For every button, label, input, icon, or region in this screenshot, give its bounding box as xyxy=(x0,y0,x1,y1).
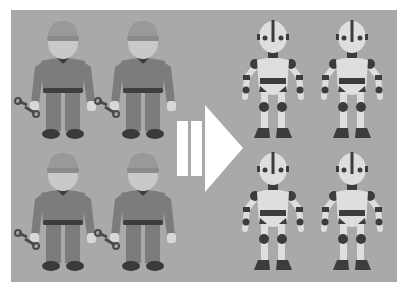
transformation-arrow xyxy=(177,105,243,192)
robot-1 xyxy=(242,20,304,138)
robot-3 xyxy=(242,152,304,270)
robot-4 xyxy=(321,152,383,270)
worker-3 xyxy=(15,153,96,271)
worker-4 xyxy=(95,153,176,271)
robot-2 xyxy=(321,20,383,138)
worker-2 xyxy=(95,21,176,139)
worker-1 xyxy=(15,21,96,139)
illustration xyxy=(0,0,407,292)
